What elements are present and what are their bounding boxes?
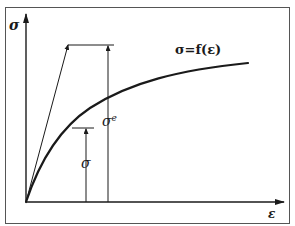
elastic-stress-symbol: σ [102,113,112,129]
elastic-stress-label: σe [102,113,117,129]
elastic-stress-superscript: e [112,113,117,123]
y-axis-label: σ [9,17,20,33]
diagram-frame [6,8,290,224]
curve-equation-label: σ=f(ε) [175,42,221,57]
actual-stress-label: σ [81,155,91,171]
stress-strain-curve [26,63,248,202]
elastic-tangent-line [26,45,68,202]
x-axis-label: ε [268,207,276,221]
stress-strain-diagram: σ ε σ=f(ε) σe σ [0,0,295,226]
